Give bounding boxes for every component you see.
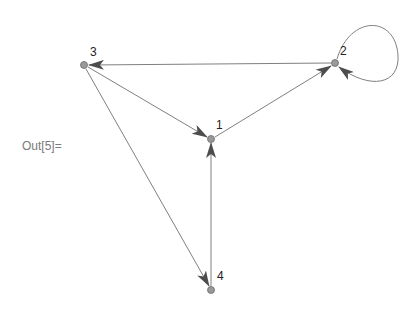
node-1[interactable]: 1: [208, 118, 224, 143]
node-2-label: 2: [340, 44, 347, 58]
directed-graph: 1 2 3 4: [0, 0, 420, 312]
node-3-label: 3: [90, 45, 97, 59]
node-4[interactable]: 4: [208, 269, 225, 294]
node-2[interactable]: 2: [332, 44, 348, 67]
edge-1-to-2: [215, 66, 331, 137]
edge-2-to-3: [89, 63, 331, 65]
node-1-label: 1: [216, 118, 223, 132]
edge-3-to-1: [88, 67, 207, 137]
node-4-label: 4: [217, 269, 224, 283]
